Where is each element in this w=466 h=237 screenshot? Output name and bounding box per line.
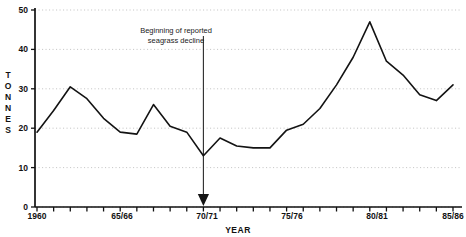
y-axis-title-letter-1: O	[5, 81, 12, 91]
annotation-label: Beginning of reported seagrass decline	[140, 26, 212, 45]
y-axis-title-letter-0: T	[5, 70, 11, 80]
y-tick-label-40: 40	[19, 44, 29, 54]
annotation-line-2: seagrass decline	[148, 36, 204, 45]
x-tick-label-7071: 70/71	[196, 211, 218, 221]
y-axis-title-letter-2: N	[5, 92, 11, 102]
y-axis-title-letter-5: S	[5, 125, 11, 135]
y-axis-title: T O N N E S	[5, 70, 12, 135]
gridlines	[35, 10, 462, 207]
x-tick-label-7576: 75/76	[281, 211, 303, 221]
y-axis-title-letter-3: N	[5, 103, 11, 113]
x-tick-label-6566: 65/66	[111, 211, 133, 221]
y-tick-label-30: 30	[19, 84, 29, 94]
line-chart-canvas: 50 40 30 20 10 0 T O N N E S 1960 65/66 …	[0, 0, 466, 237]
x-axis-title: YEAR	[225, 225, 251, 235]
y-axis-title-letter-4: E	[5, 114, 11, 124]
annotation-line-1: Beginning of reported	[140, 26, 212, 35]
y-tick-label-10: 10	[19, 163, 29, 173]
y-tick-label-50: 50	[19, 5, 29, 15]
x-axis-tick-labels: 1960 65/66 70/71 75/76 80/81 85/86	[28, 211, 464, 221]
y-tick-label-20: 20	[19, 123, 29, 133]
x-tick-label-8081: 80/81	[366, 211, 388, 221]
x-tick-label-8586: 85/86	[442, 211, 464, 221]
annotation-arrow	[198, 36, 209, 206]
x-tick-label-1960: 1960	[28, 211, 47, 221]
chart-figure: 50 40 30 20 10 0 T O N N E S 1960 65/66 …	[0, 0, 466, 237]
y-axis-tick-labels: 50 40 30 20 10 0	[19, 5, 29, 212]
